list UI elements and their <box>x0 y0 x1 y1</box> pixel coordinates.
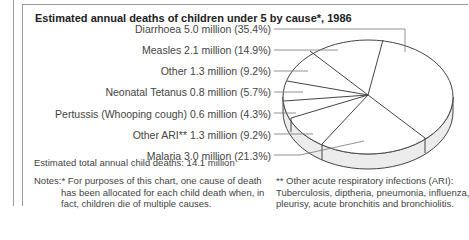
note-left-line-1: Notes:* For purposes of this chart, one … <box>34 175 264 187</box>
total-deaths-text: Estimated total annual child deaths: 14.… <box>34 157 235 168</box>
notes-right: ** Other acute respiratory infections (A… <box>276 175 469 210</box>
note-right-line-2: Tuberculosis, diptheria, pneumonia, infl… <box>276 187 469 199</box>
pie-top-face <box>283 40 453 154</box>
note-left-line-3: fact, children die of multiple causes. <box>34 198 264 210</box>
note-right-line-3: pleurisy, acute bronchitis and bronchiol… <box>276 198 469 210</box>
note-right-line-1: ** Other acute respiratory infections (A… <box>276 175 469 187</box>
note-left-line-2: has been allocated for each child death … <box>34 187 264 199</box>
notes-left: Notes:* For purposes of this chart, one … <box>34 175 264 210</box>
